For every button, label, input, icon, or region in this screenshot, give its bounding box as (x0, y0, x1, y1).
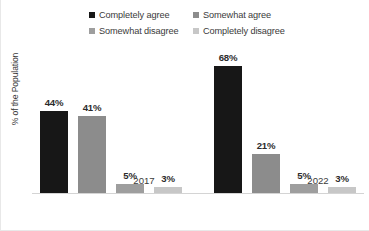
bar-completely-agree-2022[interactable] (214, 66, 242, 193)
x-axis-tick-2022: 2022 (288, 175, 348, 186)
bar-value-label: 68% (219, 52, 238, 63)
legend-row: Completely agree Somewhat agree (89, 9, 301, 25)
bar-group-2017: 44% 41% 5% 3% (40, 53, 192, 193)
chart-legend: Completely agree Somewhat agree Somewhat… (89, 9, 301, 41)
legend-item-somewhat-agree[interactable]: Somewhat agree (193, 9, 271, 21)
legend-item-label: Completely disagree (203, 25, 285, 37)
bar-chart: Completely agree Somewhat agree Somewhat… (0, 0, 369, 231)
bar-somewhat-agree-2022[interactable] (252, 154, 280, 193)
bar-somewhat-agree-2017[interactable] (78, 116, 106, 193)
legend-swatch-icon (193, 12, 199, 18)
legend-swatch-icon (89, 28, 95, 34)
bar-completely-agree-2017[interactable] (40, 111, 68, 193)
legend-item-label: Somewhat agree (203, 9, 271, 21)
legend-item-completely-disagree[interactable]: Completely disagree (193, 25, 285, 37)
plot-area: 44% 41% 5% 3% 68% 21% (32, 55, 364, 194)
legend-row: Somewhat disagree Completely disagree (89, 25, 301, 41)
legend-item-somewhat-disagree[interactable]: Somewhat disagree (89, 25, 193, 37)
legend-swatch-icon (193, 28, 199, 34)
bar-value-label: 21% (257, 140, 276, 151)
legend-swatch-icon (89, 12, 95, 18)
legend-item-completely-agree[interactable]: Completely agree (89, 9, 193, 21)
legend-item-label: Completely agree (99, 9, 169, 21)
bar-group-2022: 68% 21% 5% 3% (214, 53, 366, 193)
bar-value-label: 41% (83, 102, 102, 113)
bar-value-label: 44% (45, 97, 64, 108)
y-axis-title: % of the Population (10, 29, 20, 149)
x-axis-line (32, 193, 364, 194)
x-axis-tick-2017: 2017 (114, 175, 174, 186)
legend-item-label: Somewhat disagree (99, 25, 179, 37)
